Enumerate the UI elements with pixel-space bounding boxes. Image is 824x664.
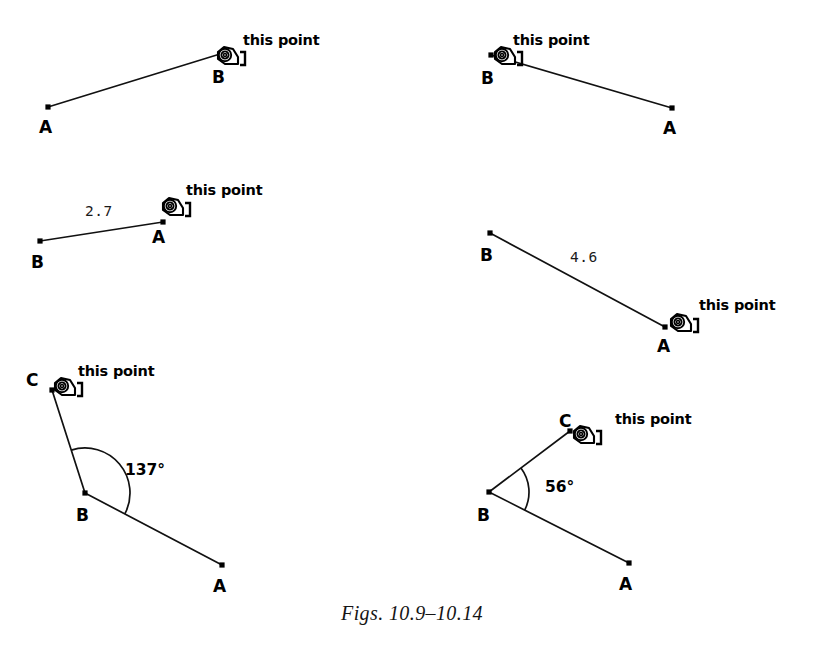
cursor-bracket (240, 52, 245, 65)
point-label-A: A (657, 336, 671, 356)
cursor-bracket (185, 203, 190, 216)
segment-BA (489, 492, 629, 563)
this-point-label: this point (699, 297, 776, 313)
hand-pointer-cursor[interactable] (55, 378, 82, 396)
point-marker-B[interactable] (488, 52, 493, 57)
point-label-A: A (213, 576, 227, 596)
hand-pointer-cursor[interactable] (574, 426, 601, 444)
point-label-A: A (152, 227, 166, 247)
this-point-label: this point (513, 32, 590, 48)
point-marker-A[interactable] (45, 104, 50, 109)
cursor-center-dot (224, 54, 227, 57)
point-label-B: B (76, 505, 89, 525)
angle-measure-label: 137° (125, 461, 165, 479)
cursor-bracket (693, 319, 698, 332)
point-label-A: A (619, 574, 633, 594)
segment-AB (48, 54, 220, 107)
segment-BA (491, 55, 672, 108)
point-label-B: B (481, 68, 494, 88)
length-measure-label: 4.6 (570, 249, 598, 265)
this-point-label: this point (78, 363, 155, 379)
point-label-A: A (39, 117, 53, 137)
point-marker-B[interactable] (486, 489, 491, 494)
figure-page: ABthis pointBAthis point2.7BAthis point4… (0, 0, 824, 664)
point-marker-A[interactable] (160, 219, 165, 224)
point-marker-A[interactable] (626, 560, 631, 565)
point-label-B: B (477, 505, 490, 525)
point-marker-A[interactable] (662, 324, 667, 329)
hand-pointer-cursor[interactable] (218, 47, 245, 65)
angle-arc (521, 468, 529, 510)
point-label-C: C (26, 370, 38, 390)
geometry-figure-canvas: ABthis pointBAthis point2.7BAthis point4… (0, 0, 824, 664)
point-label-C: C (559, 411, 571, 431)
point-marker-C[interactable] (49, 387, 54, 392)
figure-10-14: 56°CBAthis point (477, 411, 692, 594)
cursor-center-dot (580, 433, 583, 436)
point-label-A: A (663, 118, 677, 138)
figure-caption: Figs. 10.9–10.14 (0, 602, 824, 625)
figure-10-13: 137°CBAthis point (26, 363, 227, 596)
cursor-center-dot (169, 205, 172, 208)
angle-measure-label: 56° (545, 478, 574, 496)
segment-BA (85, 493, 222, 565)
point-marker-A[interactable] (669, 105, 674, 110)
this-point-label: this point (186, 182, 263, 198)
cursor-center-dot (61, 385, 64, 388)
segment-CB (52, 390, 85, 493)
point-label-B: B (212, 67, 225, 87)
figure-10-10: BAthis point (481, 32, 677, 138)
figure-10-11: 2.7BAthis point (31, 182, 263, 272)
point-marker-B[interactable] (487, 230, 492, 235)
figure-10-12: 4.6BAthis point (480, 230, 776, 356)
point-marker-A[interactable] (219, 562, 224, 567)
hand-pointer-cursor[interactable] (163, 198, 190, 216)
hand-pointer-cursor[interactable] (671, 314, 698, 332)
point-marker-B[interactable] (82, 490, 87, 495)
this-point-label: this point (615, 411, 692, 427)
this-point-label: this point (243, 32, 320, 48)
point-label-B: B (31, 252, 44, 272)
figure-10-9: ABthis point (39, 32, 320, 137)
length-measure-label: 2.7 (85, 203, 113, 219)
cursor-bracket (77, 383, 82, 396)
point-label-B: B (480, 245, 493, 265)
cursor-center-dot (677, 321, 680, 324)
cursor-center-dot (501, 54, 504, 57)
segment-BA (490, 233, 665, 327)
cursor-bracket (596, 431, 601, 444)
segment-BA (40, 222, 163, 241)
point-marker-B[interactable] (37, 238, 42, 243)
